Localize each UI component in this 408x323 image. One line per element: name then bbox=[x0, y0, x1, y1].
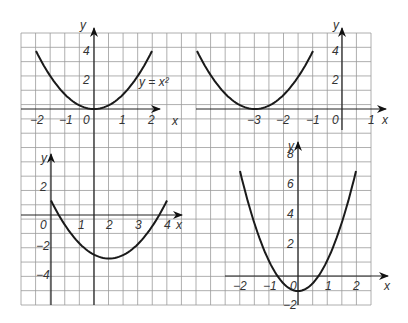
x-axis-label: x bbox=[381, 113, 389, 127]
tick-label: −2 bbox=[30, 113, 44, 127]
tick-label: 2 bbox=[352, 279, 360, 293]
tick-label: 2 bbox=[147, 113, 155, 127]
tick-label: 1 bbox=[325, 279, 332, 293]
y-axis-label: y bbox=[40, 151, 48, 165]
tick-label: 6 bbox=[287, 177, 294, 191]
tick-label: 4 bbox=[83, 44, 90, 58]
tick-label: 1 bbox=[78, 218, 85, 232]
x-axis-label: x bbox=[175, 218, 183, 232]
tick-label: 8 bbox=[287, 147, 294, 161]
tick-label: −1 bbox=[306, 113, 320, 127]
tick-label: −4 bbox=[36, 268, 50, 282]
tick-label: −1 bbox=[59, 113, 73, 127]
tick-label: 4 bbox=[332, 44, 339, 58]
y-axis-label: y bbox=[79, 18, 87, 32]
graph-sheet: y x 4 2 −2 −1 0 1 2 y = x² y x 4 2 −3 −2… bbox=[0, 0, 408, 323]
tick-label: −1 bbox=[263, 279, 277, 293]
tick-label: 0 bbox=[40, 218, 47, 232]
tick-label: −2 bbox=[233, 279, 247, 293]
tick-label: 4 bbox=[164, 218, 171, 232]
tick-label: −2 bbox=[36, 239, 50, 253]
grid-lines bbox=[21, 33, 371, 305]
y-axis-label: y bbox=[332, 18, 340, 32]
tick-label: 2 bbox=[39, 180, 47, 194]
graph-bottom-left: y x 2 −2 −4 0 1 2 3 4 bbox=[21, 151, 183, 305]
tick-label: 3 bbox=[135, 218, 142, 232]
tick-label: −2 bbox=[276, 113, 290, 127]
graph-bottom-right: y x 8 6 4 2 −2 −2 −1 0 1 2 bbox=[225, 139, 391, 312]
tick-label: −2 bbox=[283, 298, 297, 312]
tick-label: 0 bbox=[83, 113, 90, 127]
x-axis-label: x bbox=[171, 114, 179, 128]
tick-label: 0 bbox=[290, 279, 297, 293]
tick-label: 2 bbox=[105, 218, 113, 232]
tick-label: 1 bbox=[368, 113, 375, 127]
tick-label: 1 bbox=[119, 113, 126, 127]
tick-label: 2 bbox=[331, 73, 339, 87]
equation-label: y = x² bbox=[138, 75, 170, 89]
tick-label: 0 bbox=[332, 113, 339, 127]
tick-label: −3 bbox=[247, 113, 261, 127]
tick-label: 2 bbox=[286, 237, 294, 251]
x-axis-label: x bbox=[383, 279, 391, 293]
tick-label: 4 bbox=[287, 207, 294, 221]
tick-label: 2 bbox=[82, 73, 90, 87]
parabola-curve bbox=[197, 51, 313, 109]
